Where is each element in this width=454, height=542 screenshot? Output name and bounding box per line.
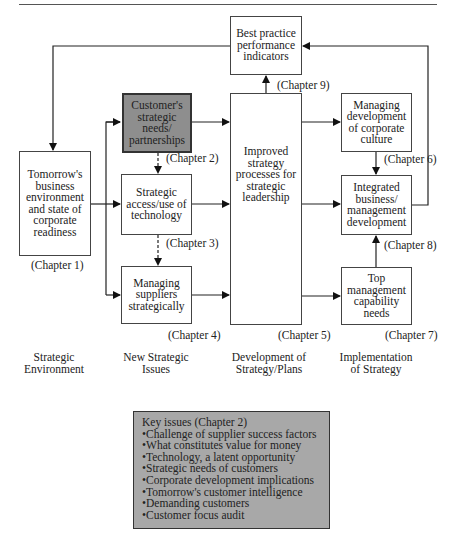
key-issues-list: Challenge of supplier success factors Wh… <box>142 429 325 522</box>
chapter-6-label: (Chapter 6) <box>384 153 437 165</box>
box-improved-strategy: Improved strategy processes for strategi… <box>230 93 302 325</box>
key-issues-box: Key issues (Chapter 2) Challenge of supp… <box>133 411 330 529</box>
column-strategic-environment: Strategic Environment <box>0 351 109 375</box>
column-label-line: Strategy/Plans <box>214 363 324 375</box>
box-managing-suppliers: Managing suppliers strategically <box>121 266 192 324</box>
box-customers-needs: Customer's strategic needs/ partnerships <box>122 93 192 153</box>
chapter-7-label: (Chapter 7) <box>385 329 438 341</box>
box-integrated-development: Integrated business/ management developm… <box>341 175 412 235</box>
chapter-4-label: (Chapter 4) <box>168 329 221 341</box>
key-issues-title: Key issues (Chapter 2) <box>142 417 325 429</box>
chapter-9-label: (Chapter 9) <box>277 79 330 91</box>
column-label-line: New Strategic <box>101 351 211 363</box>
column-label-line: Development of <box>214 351 324 363</box>
chapter-5-label: (Chapter 5) <box>278 329 331 341</box>
column-new-strategic-issues: New Strategic Issues <box>101 351 211 375</box>
column-development-of-strategy: Development of Strategy/Plans <box>214 351 324 375</box>
box-strategic-access: Strategic access/use of technology <box>121 174 192 235</box>
column-label-line: Issues <box>101 363 211 375</box>
chapter-1-label: (Chapter 1) <box>31 259 84 271</box>
column-label-line: Implementation <box>321 351 431 363</box>
chapter-2-label: (Chapter 2) <box>166 152 219 164</box>
column-implementation-of-strategy: Implementation of Strategy <box>321 351 431 375</box>
box-top-management: Top management capability needs <box>341 267 412 325</box>
chapter-3-label: (Chapter 3) <box>166 237 219 249</box>
chapter-8-label: (Chapter 8) <box>384 239 437 251</box>
column-label-line: of Strategy <box>321 363 431 375</box>
list-item: Customer focus audit <box>142 510 325 522</box>
list-item: Corporate development implications <box>142 475 325 487</box>
box-best-practice: Best practice performance indicators <box>230 16 302 75</box>
box-tomorrows-environment: Tomorrow's business environment and stat… <box>19 151 91 256</box>
column-label-line: Environment <box>0 363 109 375</box>
column-label-line: Strategic <box>0 351 109 363</box>
list-item: Demanding customers <box>142 498 325 510</box>
box-managing-culture: Managing development of corporate cultur… <box>341 93 412 152</box>
